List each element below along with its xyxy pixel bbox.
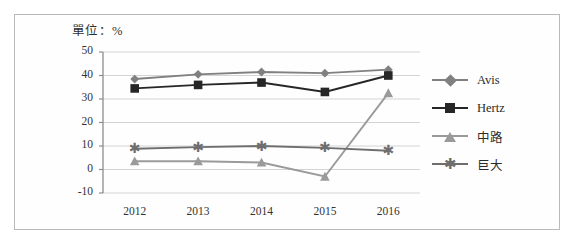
triangle-marker-icon: [444, 132, 456, 142]
legend-label-hertz: Hertz: [477, 101, 505, 116]
square-marker: [384, 71, 393, 80]
diamond-marker-icon: [444, 74, 457, 87]
legend-swatch-avis: [432, 73, 468, 87]
chart-legend: Avis Hertz 中路 ✱ 巨大: [432, 66, 550, 178]
x-tick-label: 2013: [175, 205, 221, 217]
square-marker: [257, 78, 266, 87]
y-tick-label: 30: [67, 91, 93, 103]
x-tick-label: 2012: [112, 205, 158, 217]
y-tick-label: 50: [67, 44, 93, 56]
legend-item-avis[interactable]: Avis: [432, 66, 550, 94]
y-tick-label: 20: [67, 115, 93, 127]
legend-item-judai[interactable]: ✱ 巨大: [432, 150, 550, 178]
x-tick-label: 2014: [239, 205, 285, 217]
square-marker: [321, 88, 330, 97]
chart-page: 單位：% ✱✱✱✱✱ -1001020304050201220132014201…: [0, 0, 576, 245]
square-marker: [194, 81, 203, 90]
star-marker: ✱: [382, 142, 394, 158]
legend-label-zhonglu: 中路: [477, 127, 503, 146]
triangle-marker: [384, 88, 394, 97]
legend-swatch-hertz: [432, 101, 468, 115]
diamond-marker: [194, 70, 203, 79]
x-tick-label: 2016: [365, 205, 411, 217]
star-marker: ✱: [129, 140, 141, 156]
star-marker: ✱: [256, 138, 268, 154]
legend-item-hertz[interactable]: Hertz: [432, 94, 550, 122]
star-marker: ✱: [319, 139, 331, 155]
y-tick-label: 10: [67, 138, 93, 150]
legend-swatch-zhonglu: [432, 129, 468, 143]
legend-label-avis: Avis: [477, 73, 500, 88]
y-tick-label: 0: [67, 162, 93, 174]
legend-label-judai: 巨大: [477, 155, 503, 174]
star-marker: ✱: [192, 139, 204, 155]
diamond-marker: [321, 69, 330, 78]
star-marker-icon: ✱: [444, 158, 456, 170]
x-tick-label: 2015: [302, 205, 348, 217]
y-tick-label: 40: [67, 68, 93, 80]
square-marker-icon: [445, 103, 455, 113]
legend-item-zhonglu[interactable]: 中路: [432, 122, 550, 150]
square-marker: [130, 84, 139, 93]
y-tick-label: -10: [67, 185, 93, 197]
legend-swatch-judai: ✱: [432, 157, 468, 171]
